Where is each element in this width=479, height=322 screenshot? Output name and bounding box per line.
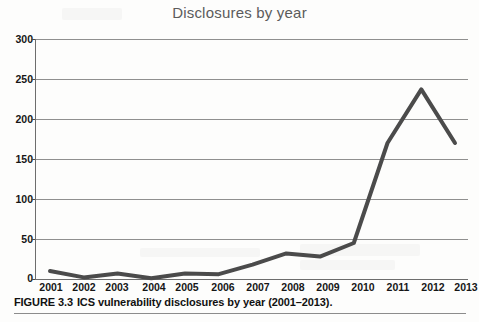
disclosures-line [50, 89, 455, 278]
x-tick-label-2005: 2005 [175, 281, 198, 293]
x-tick-label-2006: 2006 [211, 281, 234, 293]
x-tick-label-2009: 2009 [316, 281, 339, 293]
x-tick-label-2010: 2010 [351, 281, 374, 293]
x-tick-label-2004: 2004 [142, 281, 165, 293]
x-axis-labels: 2001 2002 2003 2004 2005 2006 2007 2008 … [36, 281, 468, 297]
x-tick-label-2003: 2003 [105, 281, 128, 293]
x-tick-label-2001: 2001 [39, 281, 62, 293]
x-tick-label-2013: 2013 [454, 281, 477, 293]
x-tick-label-2002: 2002 [72, 281, 95, 293]
caption-rule [14, 313, 466, 314]
data-series-svg [0, 0, 479, 322]
figure-caption-text: ICS vulnerability disclosures by year (2… [77, 296, 332, 308]
x-tick-label-2011: 2011 [387, 281, 410, 293]
figure-number: FIGURE 3.3 [14, 296, 73, 308]
x-tick-label-2012: 2012 [421, 281, 444, 293]
x-tick-label-2007: 2007 [246, 281, 269, 293]
x-tick-label-2008: 2008 [281, 281, 304, 293]
figure-caption: FIGURE 3.3ICS vulnerability disclosures … [14, 296, 469, 308]
figure-panel: Disclosures by year 300 250 200 150 100 … [0, 0, 479, 322]
